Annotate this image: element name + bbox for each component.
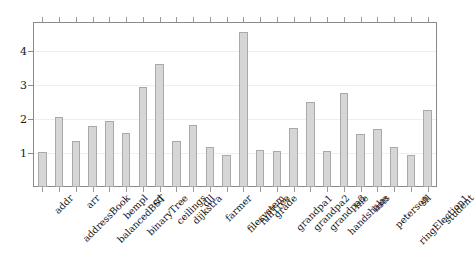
x-tick-mark-top xyxy=(143,17,144,22)
x-tick-mark xyxy=(176,187,177,192)
bar xyxy=(289,128,298,187)
y-tick-label: 2 xyxy=(0,113,33,124)
x-tick-mark-top xyxy=(193,17,194,22)
x-tick-mark xyxy=(193,187,194,192)
x-tick-mark xyxy=(109,187,110,192)
x-tick-mark xyxy=(76,187,77,192)
bar xyxy=(155,64,164,187)
x-tick-mark xyxy=(394,187,395,192)
x-tick-mark xyxy=(143,187,144,192)
x-tick-mark-top xyxy=(42,17,43,22)
x-tick-label: arr xyxy=(84,193,101,210)
x-tick-label: farmer xyxy=(224,193,254,223)
x-tick-mark xyxy=(344,187,345,192)
bar xyxy=(407,155,416,187)
x-tick-mark-top xyxy=(160,17,161,22)
x-tick-mark-top xyxy=(109,17,110,22)
x-tick-mark-top xyxy=(394,17,395,22)
bar xyxy=(273,151,282,187)
y-gridline xyxy=(34,51,436,52)
y-tick-label: 3 xyxy=(0,79,33,90)
x-tick-mark-top xyxy=(327,17,328,22)
x-tick-mark-top xyxy=(361,17,362,22)
bar xyxy=(55,117,64,187)
bar xyxy=(340,93,349,187)
x-tick-mark xyxy=(160,187,161,192)
x-tick-mark-top xyxy=(344,17,345,22)
y-tick-label: 4 xyxy=(0,45,33,56)
x-tick-mark-top xyxy=(377,17,378,22)
x-tick-mark xyxy=(377,187,378,192)
x-tick-mark-top xyxy=(76,17,77,22)
bar xyxy=(222,155,231,187)
x-tick-mark-top xyxy=(294,17,295,22)
bar xyxy=(390,147,399,187)
x-tick-mark xyxy=(42,187,43,192)
x-tick-mark-top xyxy=(227,17,228,22)
bar xyxy=(105,121,114,187)
bar xyxy=(256,150,265,187)
bar xyxy=(323,151,332,187)
x-tick-mark-top xyxy=(210,17,211,22)
x-tick-mark-top xyxy=(126,17,127,22)
x-tick-mark-top xyxy=(260,17,261,22)
bar xyxy=(189,125,198,187)
bar xyxy=(72,141,81,187)
x-tick-mark-top xyxy=(243,17,244,22)
y-gridline xyxy=(34,85,436,86)
x-tick-label: lists xyxy=(370,193,391,214)
x-tick-mark-top xyxy=(310,17,311,22)
bar xyxy=(139,87,148,187)
x-tick-mark xyxy=(260,187,261,192)
bar xyxy=(122,133,131,187)
x-tick-mark xyxy=(227,187,228,192)
bar xyxy=(356,134,365,187)
y-gridline xyxy=(34,119,436,120)
bar xyxy=(38,152,47,187)
x-tick-mark xyxy=(126,187,127,192)
x-tick-mark-top xyxy=(277,17,278,22)
bar xyxy=(172,141,181,187)
x-tick-mark xyxy=(327,187,328,192)
y-tick-label: 1 xyxy=(0,147,33,158)
x-tick-mark xyxy=(243,187,244,192)
bar xyxy=(206,147,215,187)
x-tick-mark-top xyxy=(176,17,177,22)
x-tick-mark xyxy=(277,187,278,192)
bar xyxy=(306,102,315,187)
bar xyxy=(423,110,432,187)
x-tick-label: addr xyxy=(53,193,76,216)
x-tick-mark xyxy=(59,187,60,192)
x-tick-mark-top xyxy=(428,17,429,22)
x-tick-mark xyxy=(210,187,211,192)
x-tick-mark xyxy=(294,187,295,192)
x-tick-mark-top xyxy=(93,17,94,22)
bar xyxy=(373,129,382,187)
x-tick-mark xyxy=(428,187,429,192)
x-tick-mark xyxy=(411,187,412,192)
x-tick-mark xyxy=(310,187,311,192)
x-tick-mark-top xyxy=(59,17,60,22)
bar xyxy=(239,32,248,187)
x-tick-mark-top xyxy=(411,17,412,22)
bar xyxy=(88,126,97,187)
